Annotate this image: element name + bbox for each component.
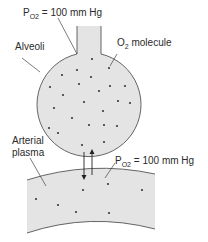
o2-molecule-dot bbox=[107, 183, 109, 185]
o2-molecule-dot bbox=[129, 102, 131, 104]
o2-molecule-dot bbox=[78, 83, 80, 85]
o2-molecule-dot bbox=[108, 212, 110, 214]
o2-molecule-dot bbox=[88, 124, 90, 126]
arterial-plasma-label-line2: plasma bbox=[12, 147, 45, 158]
o2-molecule-dot bbox=[109, 85, 111, 87]
plasma-fill bbox=[27, 168, 155, 233]
alveoli-label: Alveoli bbox=[15, 41, 44, 52]
o2-molecule-dot bbox=[81, 144, 83, 146]
o2-molecule-dot bbox=[76, 69, 78, 71]
o2-molecule-dot bbox=[117, 100, 119, 102]
o2-molecule-dot bbox=[98, 90, 100, 92]
arterial-plasma bbox=[27, 168, 155, 233]
o2-molecule-dot bbox=[57, 132, 59, 134]
o2-molecule-dot bbox=[91, 58, 93, 60]
o2-molecule-dot bbox=[83, 101, 85, 103]
o2-molecule-dot bbox=[82, 189, 84, 191]
o2-molecule-dot bbox=[57, 204, 59, 206]
o2-molecule-dot bbox=[103, 141, 105, 143]
arterial-plasma-label-line1: Arterial bbox=[12, 135, 44, 146]
o2-molecule-dot bbox=[62, 94, 64, 96]
alveolar-po2-label: PO2 = 100 mm Hg bbox=[23, 7, 102, 20]
o2-molecule-dot bbox=[48, 127, 50, 129]
o2-molecule-dot bbox=[116, 125, 118, 127]
o2-molecule-label: O2 molecule bbox=[117, 37, 172, 50]
plasma-po2-label: PO2 = 100 mm Hg bbox=[115, 155, 194, 168]
o2-molecule-dot bbox=[71, 117, 73, 119]
diagram: PO2 = 100 mm Hg Alveoli O2 molecule Arte… bbox=[0, 0, 208, 242]
diagram-canvas: PO2 = 100 mm Hg Alveoli O2 molecule Arte… bbox=[0, 0, 208, 242]
o2-molecule-dot bbox=[35, 198, 37, 200]
o2-molecule-dot bbox=[61, 74, 63, 76]
o2-molecule-dot bbox=[49, 86, 51, 88]
leader-alveoli bbox=[22, 58, 40, 72]
leader-alveolar-po2 bbox=[58, 18, 77, 54]
o2-molecule-dot bbox=[90, 76, 92, 78]
o2-molecule-dot bbox=[124, 85, 126, 87]
o2-molecule-dot bbox=[75, 211, 77, 213]
o2-molecule-dot bbox=[102, 110, 104, 112]
o2-molecule-dot bbox=[103, 124, 105, 126]
o2-molecule-dot bbox=[108, 67, 110, 69]
o2-molecule-dot bbox=[141, 189, 143, 191]
o2-molecule-dot bbox=[53, 107, 55, 109]
